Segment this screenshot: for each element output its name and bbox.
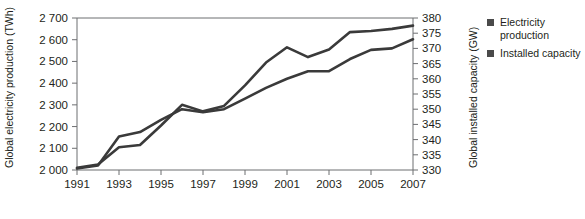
x-tick-label: 2007: [400, 178, 426, 190]
y-tick-label-left: 2 700: [39, 12, 68, 24]
x-tick-label: 1997: [190, 178, 216, 190]
y-tick-label-left: 2 400: [39, 77, 68, 89]
series-line-electricity-production: [77, 26, 413, 168]
y-tick-label-left: 2 500: [39, 55, 68, 67]
x-tick-label: 1991: [64, 178, 90, 190]
y-tick-label-right: 360: [422, 73, 441, 85]
series-line-installed-capacity: [77, 39, 413, 168]
y-tick-label-left: 2 200: [39, 121, 68, 133]
y-tick-label-right: 350: [422, 103, 441, 115]
x-axis: 199119931995199719992001200320052007: [64, 18, 426, 190]
legend-label-installed-capacity: Installed capacity: [500, 47, 581, 59]
y-tick-label-right: 375: [422, 27, 441, 39]
legend-label-electricity-production-line1: Electricity: [500, 16, 546, 28]
legend: Electricity production Installed capacit…: [487, 16, 581, 59]
x-tick-label: 1993: [106, 178, 132, 190]
y-tick-label-right: 330: [422, 164, 441, 176]
chart-container: 2 0002 1002 2002 3002 4002 5002 6002 700…: [0, 0, 585, 219]
y-tick-label-right: 340: [422, 134, 441, 146]
legend-swatch-installed-capacity: [487, 50, 494, 57]
y-tick-label-right: 365: [422, 58, 441, 70]
x-tick-label: 2001: [274, 178, 300, 190]
legend-swatch-electricity-production: [487, 19, 494, 26]
line-chart: 2 0002 1002 2002 3002 4002 5002 6002 700…: [0, 0, 585, 219]
y-tick-label-right: 370: [422, 42, 441, 54]
y-tick-label-right: 335: [422, 149, 441, 161]
y-tick-label-left: 2 100: [39, 142, 68, 154]
y-axis-right: 330335340345350355360365370375380: [413, 12, 441, 176]
x-tick-label: 1995: [148, 178, 174, 190]
y-tick-label-left: 2 000: [39, 164, 68, 176]
x-tick-label: 1999: [232, 178, 258, 190]
y-axis-left: 2 0002 1002 2002 3002 4002 5002 6002 700: [39, 12, 77, 176]
y-tick-label-right: 345: [422, 118, 441, 130]
y-axis-right-title: Global installed capacity (GW): [467, 27, 479, 168]
x-tick-label: 2005: [358, 178, 384, 190]
y-tick-label-right: 380: [422, 12, 441, 24]
y-tick-label-right: 355: [422, 88, 441, 100]
data-series-group: [77, 26, 413, 169]
y-tick-label-left: 2 600: [39, 34, 68, 46]
y-tick-label-left: 2 300: [39, 99, 68, 111]
legend-label-electricity-production-line2: production: [500, 29, 549, 41]
x-tick-label: 2003: [316, 178, 342, 190]
y-axis-left-title: Global electricity production (TWh): [3, 7, 15, 168]
